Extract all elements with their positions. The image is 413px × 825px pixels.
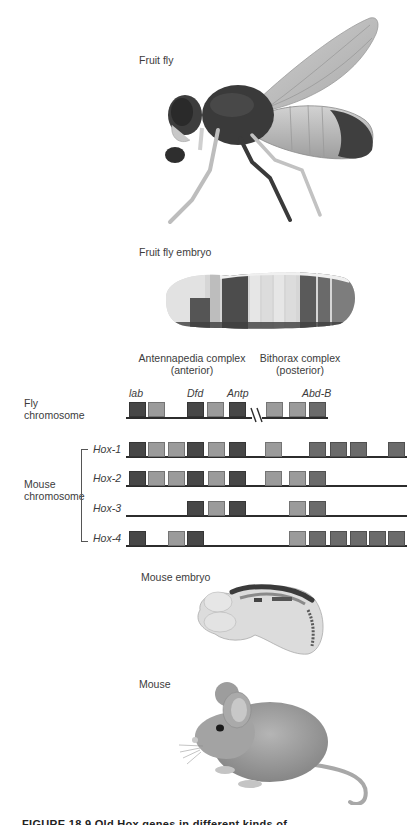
gene-box [265,471,282,486]
gene-box [129,531,146,546]
chromosome-break-icon [249,406,265,424]
mouse-illustration [165,680,390,805]
fly-gene-label: Dfd [187,387,203,399]
chromosome-label: chromosome [24,409,85,421]
fly-gene-label: Antp [227,387,249,399]
chromosome-label-mouse: chromosome [24,490,85,502]
fruit-fly-embryo-illustration [160,268,360,332]
gene-box [229,402,246,417]
gene-box [187,501,204,516]
fly-gene-label: lab [129,387,143,399]
gene-box [388,442,405,457]
gene-box [168,471,185,486]
mouse-label: Mouse [24,478,85,490]
gene-box [350,531,367,546]
gene-box [309,442,326,457]
gene-box [187,531,204,546]
bithorax-title: Bithorax complex [250,352,350,364]
hox-cluster-label: Hox-1 [93,443,121,455]
gene-box [289,531,306,546]
gene-box [148,402,165,417]
hox-chromosome-line [126,515,407,517]
gene-box [289,402,306,417]
gene-box [309,402,326,417]
gene-box [369,531,386,546]
gene-box [207,402,224,417]
bithorax-complex-label: Bithorax complex (posterior) [250,352,350,376]
gene-box [229,501,246,516]
figure-caption: FIGURE 18.9 Old Hox genes in different k… [22,818,301,825]
gene-box [289,501,306,516]
gene-box [129,402,146,417]
mouse-bracket-bottom-tick [81,541,88,542]
gene-box [187,471,204,486]
gene-box [266,402,283,417]
mouse-bracket-top-tick [81,449,88,450]
hox-cluster-label: Hox-3 [93,502,121,514]
antennapedia-title: Antennapedia complex [127,352,257,364]
gene-box [129,471,146,486]
fly-chromosome-line-right [262,417,328,419]
bithorax-subtitle: (posterior) [250,364,350,376]
gene-box [309,531,326,546]
fruit-fly-illustration [140,10,400,235]
gene-box [148,471,165,486]
gene-box [388,531,405,546]
gene-box [208,471,225,486]
gene-box [187,402,204,417]
gene-box [309,501,326,516]
fruit-fly-embryo-label: Fruit fly embryo [139,246,211,258]
gene-box [265,442,282,457]
mouse-chromosome-label: Mouse chromosome [24,478,85,502]
gene-box [289,471,306,486]
gene-box [309,471,326,486]
gene-box [330,531,347,546]
gene-box [208,442,225,457]
gene-box [229,442,246,457]
gene-box [168,531,185,546]
fly-chromosome-line [126,417,252,419]
gene-box [330,442,347,457]
antennapedia-subtitle: (anterior) [127,364,257,376]
mouse-embryo-illustration [190,580,330,660]
gene-box [168,442,185,457]
antennapedia-complex-label: Antennapedia complex (anterior) [127,352,257,376]
hox-cluster-label: Hox-2 [93,472,121,484]
gene-box [350,442,367,457]
gene-box [208,501,225,516]
hox-cluster-label: Hox-4 [93,532,121,544]
fly-gene-label: Abd-B [302,387,331,399]
mouse-bracket [81,449,82,542]
gene-box [229,471,246,486]
gene-box [129,442,146,457]
gene-box [187,442,204,457]
fly-label: Fly [24,397,85,409]
fly-chromosome-label: Fly chromosome [24,397,85,421]
gene-box [148,442,165,457]
